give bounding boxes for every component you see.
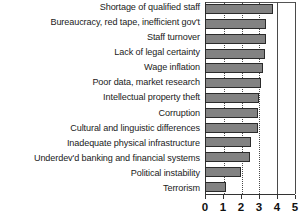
gridline-5 <box>295 2 296 194</box>
bar[interactable] <box>205 152 250 162</box>
bar-row <box>206 179 295 194</box>
tick-mark-5 <box>295 195 296 199</box>
category-label: Lack of legal certainty <box>0 45 203 60</box>
bar-chart: Shortage of qualified staff Bureaucracy,… <box>0 0 300 221</box>
tick-mark-1 <box>223 195 224 199</box>
bar-row <box>206 91 295 106</box>
bar[interactable] <box>205 137 251 147</box>
bar[interactable] <box>205 19 266 29</box>
category-label: Underdev'd banking and financial systems <box>0 151 203 166</box>
category-label: Corruption <box>0 106 203 121</box>
bar[interactable] <box>205 63 263 73</box>
bar-row <box>206 2 295 17</box>
category-label: Political instability <box>0 166 203 181</box>
category-label: Poor data, market research <box>0 75 203 90</box>
category-label: Inadequate physical infrastructure <box>0 136 203 151</box>
x-axis-tick-marks <box>205 195 295 199</box>
tick-mark-3 <box>259 195 260 199</box>
category-label: Terrorism <box>0 181 203 196</box>
bar-series <box>206 2 295 194</box>
tick-mark-0 <box>205 195 206 199</box>
bar[interactable] <box>205 4 273 14</box>
bar-row <box>206 164 295 179</box>
tick-mark-4 <box>277 195 278 199</box>
x-axis-tick-labels: 012345 <box>205 200 295 216</box>
tick-label-4: 4 <box>274 200 280 214</box>
category-axis-labels: Shortage of qualified staff Bureaucracy,… <box>0 0 203 196</box>
tick-label-2: 2 <box>238 200 244 214</box>
bar-row <box>206 76 295 91</box>
tick-label-3: 3 <box>256 200 262 214</box>
tick-label-5: 5 <box>292 200 298 214</box>
bar-row <box>206 61 295 76</box>
bar[interactable] <box>205 49 265 59</box>
bar-row <box>206 150 295 165</box>
bar-row <box>206 105 295 120</box>
plot-area <box>205 2 295 195</box>
category-label: Bureaucracy, red tape, inefficient gov't <box>0 15 203 30</box>
tick-mark-2 <box>241 195 242 199</box>
bar[interactable] <box>205 167 241 177</box>
category-label: Cultural and linguistic differences <box>0 121 203 136</box>
bar[interactable] <box>205 93 259 103</box>
bar-row <box>206 120 295 135</box>
bar[interactable] <box>205 78 261 88</box>
bar-row <box>206 17 295 32</box>
category-label: Shortage of qualified staff <box>0 0 203 15</box>
tick-label-0: 0 <box>202 200 208 214</box>
bar-row <box>206 32 295 47</box>
bar[interactable] <box>205 123 258 133</box>
category-label: Intellectual property theft <box>0 90 203 105</box>
bar-row <box>206 135 295 150</box>
category-label: Staff turnover <box>0 30 203 45</box>
bar[interactable] <box>205 182 226 192</box>
tick-label-1: 1 <box>220 200 226 214</box>
bar-row <box>206 46 295 61</box>
category-label: Wage inflation <box>0 60 203 75</box>
bar[interactable] <box>205 34 266 44</box>
bar[interactable] <box>205 108 258 118</box>
